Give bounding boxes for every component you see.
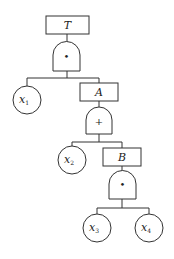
and-gate-icon: • [53,42,80,71]
event-label: A [94,86,103,99]
and-gate-icon: • [109,171,136,200]
basic-event-x3: x3 [83,214,111,242]
event-box-T: T [46,16,89,34]
subscript: 3 [95,227,99,234]
subscript: 1 [25,99,29,106]
subscript: 2 [70,159,74,166]
or-gate-icon: + [86,107,112,134]
gate-symbol: + [95,116,103,127]
event-box-B: B [103,148,141,166]
basic-event-x2: x2 [58,146,86,174]
subscript: 4 [147,227,151,234]
event-box-A: A [80,83,118,101]
gate-symbol: • [64,51,70,62]
fault-tree-diagram: T • x1 A + x2 B • x3 x4 [0,0,174,259]
basic-event-x1: x1 [13,86,41,114]
event-label: B [117,151,126,164]
basic-event-x4: x4 [135,214,163,242]
gate-symbol: • [120,179,126,190]
